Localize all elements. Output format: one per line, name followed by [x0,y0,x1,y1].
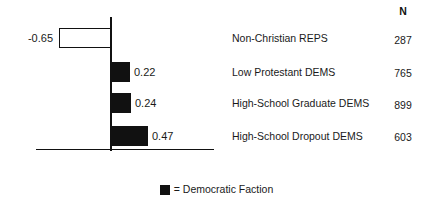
legend-swatch-icon [160,185,170,195]
category-label-non-christian-reps: Non-Christian REPS [232,31,387,45]
bar-row: 0.24 [0,93,230,115]
bar-value-label: 0.24 [135,95,156,111]
bar-high-school-dropout-dems[interactable] [111,126,148,146]
bar-value-label: 0.22 [134,64,155,80]
plot-area: -0.65 0.22 0.24 0.47 [0,0,230,160]
n-value: 603 [386,130,420,144]
bar-low-protestant-dems[interactable] [111,62,130,82]
bar-value-label: 0.47 [152,128,173,144]
n-value: 287 [386,33,420,47]
n-column-header: N [386,4,420,18]
legend-label-democratic-faction: = Democratic Faction [174,183,274,196]
bar-value-label: -0.65 [5,30,53,46]
bar-high-school-graduate-dems[interactable] [111,93,131,113]
bar-row: 0.22 [0,62,230,84]
bar-row: 0.47 [0,126,230,148]
bar-chart-figure: -0.65 0.22 0.24 0.47 Non-Christian REPS … [0,0,433,206]
bar-row: -0.65 [0,28,230,50]
chart-legend: = Democratic Faction [0,183,433,196]
n-value: 765 [386,66,420,80]
n-column: N 287 765 899 603 [386,0,432,160]
category-label-high-school-dropout-dems: High-School Dropout DEMS [232,129,387,143]
category-label-column: Non-Christian REPS Low Protestant DEMS H… [232,0,387,160]
n-value: 899 [386,98,420,112]
axis-baseline [36,149,214,150]
category-label-high-school-graduate-dems: High-School Graduate DEMS [232,96,387,110]
category-label-low-protestant-dems: Low Protestant DEMS [232,65,387,79]
bar-non-christian-reps[interactable] [59,28,111,48]
